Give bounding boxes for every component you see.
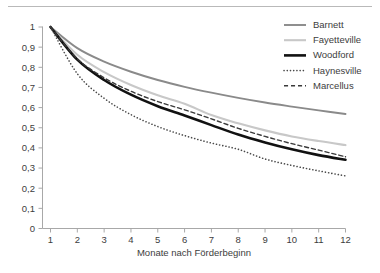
y-tick-label: 0,6 bbox=[22, 102, 35, 113]
x-tick-label: 2 bbox=[75, 234, 80, 245]
y-tick-label: 0,7 bbox=[22, 82, 35, 93]
legend-label-haynesville: Haynesville bbox=[313, 65, 362, 76]
chart-legend: BarnettFayettevilleWoodfordHaynesvilleMa… bbox=[284, 19, 362, 91]
y-tick-label: 0,5 bbox=[22, 122, 35, 133]
legend-label-woodford: Woodford bbox=[313, 49, 354, 60]
series-line-haynesville bbox=[51, 27, 346, 176]
series-group bbox=[51, 27, 346, 176]
x-tick-label: 11 bbox=[314, 234, 324, 245]
legend-label-barnett: Barnett bbox=[313, 19, 344, 30]
x-tick-label: 12 bbox=[340, 234, 351, 245]
x-tick-label: 7 bbox=[209, 234, 214, 245]
y-tick-label: 0,8 bbox=[22, 62, 35, 73]
y-axis-group: 00,10,20,30,40,50,60,70,80,91 bbox=[22, 21, 43, 234]
x-axis-title: Monate nach Förderbeginn bbox=[137, 247, 251, 258]
y-tick-label: 0,1 bbox=[22, 203, 35, 214]
x-axis-group: 123456789101112 Monate nach Förderbeginn bbox=[43, 229, 351, 259]
chart-figure: 00,10,20,30,40,50,60,70,80,91 1234567891… bbox=[0, 0, 380, 273]
x-tick-label: 6 bbox=[182, 234, 187, 245]
legend-label-fayetteville: Fayetteville bbox=[313, 34, 361, 45]
y-tick-label: 0,9 bbox=[22, 42, 35, 53]
y-tick-label: 0 bbox=[30, 223, 35, 234]
x-tick-label: 3 bbox=[101, 234, 106, 245]
x-tick-group: 123456789101112 bbox=[48, 229, 351, 246]
x-tick-label: 4 bbox=[128, 234, 133, 245]
x-tick-label: 9 bbox=[262, 234, 267, 245]
y-tick-group: 00,10,20,30,40,50,60,70,80,91 bbox=[22, 21, 43, 234]
x-tick-label: 1 bbox=[48, 234, 53, 245]
y-tick-label: 0,3 bbox=[22, 162, 35, 173]
y-tick-label: 0,4 bbox=[22, 142, 35, 153]
x-tick-label: 10 bbox=[287, 234, 298, 245]
y-tick-label: 1 bbox=[30, 21, 35, 32]
x-tick-label: 8 bbox=[236, 234, 241, 245]
legend-label-marcellus: Marcellus bbox=[313, 80, 354, 91]
x-tick-label: 5 bbox=[155, 234, 160, 245]
line-chart-canvas: 00,10,20,30,40,50,60,70,80,91 1234567891… bbox=[0, 0, 380, 273]
y-tick-label: 0,2 bbox=[22, 183, 35, 194]
